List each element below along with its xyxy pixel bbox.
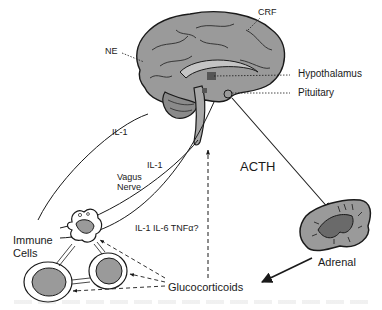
pituitary-label: Pituitary xyxy=(298,88,334,98)
il1-upper-label: IL-1 xyxy=(112,128,128,137)
acth-label: ACTH xyxy=(240,160,275,173)
adrenal-label: Adrenal xyxy=(318,257,356,268)
immune-cells-illustration xyxy=(24,209,127,302)
faded-caption xyxy=(14,300,374,304)
vagus-label: Vagus xyxy=(117,173,142,182)
cytokines-label: IL-1 IL-6 TNFα? xyxy=(135,224,199,233)
brain-illustration xyxy=(137,12,285,145)
immune-label: Immune xyxy=(13,235,53,246)
glucocorticoids-label: Glucocorticoids xyxy=(168,282,243,293)
adrenal-illustration xyxy=(300,200,370,251)
il1-lower-label: IL-1 xyxy=(147,161,163,170)
ne-label: NE xyxy=(105,47,118,56)
cells-label: Cells xyxy=(13,248,37,259)
nerve-label: Nerve xyxy=(117,183,141,192)
hypothalamus-label: Hypothalamus xyxy=(298,69,362,79)
crf-label: CRF xyxy=(258,8,277,17)
